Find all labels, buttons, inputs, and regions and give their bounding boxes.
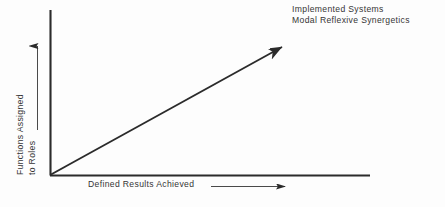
- chart-graphic: [0, 0, 445, 207]
- annotation-line-1: Implemented Systems: [292, 4, 410, 15]
- x-axis-label: Defined Results Achieved: [88, 179, 194, 189]
- annotation-line-2: Modal Reflexive Synergetics: [292, 15, 410, 26]
- trend-arrow: [51, 47, 282, 175]
- chart-annotation: Implemented Systems Modal Reflexive Syne…: [292, 4, 410, 26]
- y-axis-label-line-2: to Roles: [27, 141, 37, 175]
- diagram-canvas: Implemented Systems Modal Reflexive Syne…: [0, 0, 445, 207]
- y-axis-label-line-1: Functions Assigned: [15, 94, 25, 175]
